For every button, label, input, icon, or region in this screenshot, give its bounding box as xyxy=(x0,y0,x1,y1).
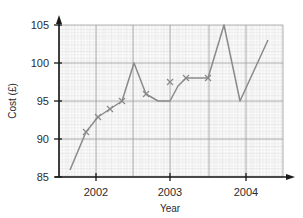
y-tick-label-90: 90 xyxy=(37,133,49,145)
y-tick-label-95: 95 xyxy=(37,95,49,107)
x-tick-label-2004: 2004 xyxy=(234,186,258,198)
y-axis-title: Cost (£) xyxy=(7,83,18,119)
line-chart: 105 100 95 90 85 2002 2003 2004 Year Cos… xyxy=(0,0,303,218)
x-tick-label-2002: 2002 xyxy=(84,186,108,198)
x-tick-label-2003: 2003 xyxy=(158,186,182,198)
chart-canvas: 105 100 95 90 85 2002 2003 2004 Year Cos… xyxy=(0,0,303,218)
x-axis-title: Year xyxy=(160,203,181,214)
y-tick-label-105: 105 xyxy=(31,19,49,31)
y-tick-label-85: 85 xyxy=(37,171,49,183)
y-tick-label-100: 100 xyxy=(31,57,49,69)
